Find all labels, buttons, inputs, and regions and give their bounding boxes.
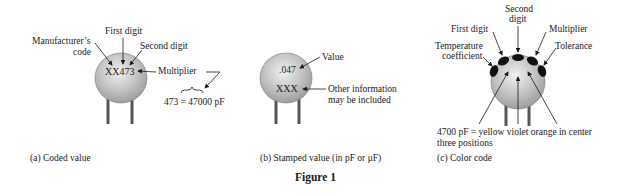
note-color-code-line1: 4700 pF = yellow violet orange in center xyxy=(437,127,592,138)
label-first-digit: First digit xyxy=(105,26,142,37)
body-value: .047 xyxy=(279,65,296,75)
label-manufacturer-code-line2: code xyxy=(73,47,91,58)
label-first-digit-c: First digit xyxy=(451,24,488,35)
body-other: XXX xyxy=(276,83,298,94)
equation-473: 473 = 47000 pF xyxy=(164,97,225,108)
label-tolerance: Tolerance xyxy=(555,41,592,52)
label-other-info-line2: may be included xyxy=(328,95,391,106)
diagram-graphics xyxy=(0,0,624,196)
note-color-code-line2: three positions xyxy=(437,138,493,149)
label-second-digit-c-line2: digit xyxy=(509,14,526,25)
label-multiplier-c: Multiplier xyxy=(549,24,588,35)
body-marking-code: XX473 xyxy=(105,66,134,77)
label-temperature-line2: coefficient xyxy=(442,51,482,62)
label-second-digit: Second digit xyxy=(140,41,188,52)
label-value: Value xyxy=(322,52,344,63)
label-other-info-line1: Other information xyxy=(328,84,397,95)
caption-a: (a) Coded value xyxy=(30,153,91,163)
caption-b: (b) Stamped value (in pF or μF) xyxy=(260,153,381,163)
label-multiplier: Multiplier xyxy=(158,66,197,77)
capacitor-a xyxy=(95,53,147,124)
label-manufacturer-code-line1: Manufacturer’s xyxy=(32,36,90,47)
figure-title: Figure 1 xyxy=(295,171,336,183)
caption-c: (c) Color code xyxy=(437,153,492,163)
